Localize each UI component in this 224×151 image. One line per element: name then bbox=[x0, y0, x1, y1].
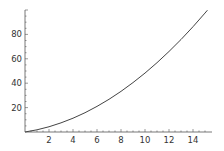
x-tick-label: 10 bbox=[140, 135, 151, 145]
y-tick-label: 20 bbox=[11, 103, 22, 113]
data-line bbox=[25, 10, 207, 132]
y-tick-label: 80 bbox=[11, 29, 22, 39]
x-tick-label: 2 bbox=[46, 135, 51, 145]
y-tick-label: 60 bbox=[11, 54, 22, 64]
axes bbox=[25, 10, 212, 132]
x-tick-label: 14 bbox=[188, 135, 199, 145]
ticks: 246810121420406080 bbox=[11, 10, 205, 145]
y-tick-label: 40 bbox=[11, 78, 22, 88]
x-tick-label: 12 bbox=[164, 135, 175, 145]
line-chart: 246810121420406080 bbox=[0, 0, 224, 151]
x-tick-label: 4 bbox=[70, 135, 75, 145]
x-tick-label: 8 bbox=[118, 135, 123, 145]
x-tick-label: 6 bbox=[94, 135, 99, 145]
